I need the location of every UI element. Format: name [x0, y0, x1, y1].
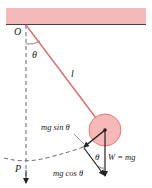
angle-top-label: θ — [32, 49, 37, 60]
weight-label: W = mg — [108, 152, 135, 162]
ceiling — [6, 8, 146, 24]
radial-force-label: mg cos θ — [53, 168, 83, 178]
equilibrium-point-label: P — [14, 163, 21, 174]
radial-force-vector — [84, 148, 104, 175]
swing-arc — [4, 146, 86, 161]
pendulum-string — [26, 25, 105, 130]
tangential-force-label: mg sin θ — [41, 122, 70, 132]
pendulum-diagram: O θ l mg sin θ θ W = mg mg cos θ P — [0, 0, 152, 188]
angle-bottom-label: θ — [95, 152, 100, 162]
label-pointer — [74, 134, 84, 144]
length-label: l — [71, 68, 74, 79]
pivot-label: O — [14, 26, 21, 37]
